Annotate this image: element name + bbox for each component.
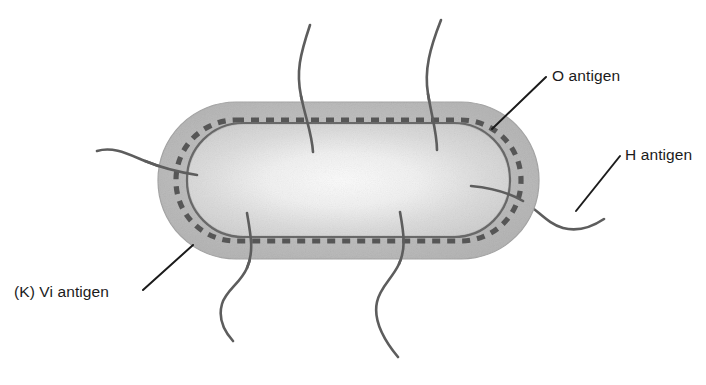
leader-line-o-antigen <box>492 77 546 129</box>
bacterial-cell-diagram: O antigen H antigen (K) Vi antigen <box>0 0 706 385</box>
leader-line-h-antigen <box>576 156 620 211</box>
label-h-antigen: H antigen <box>625 146 692 163</box>
figure-root: O antigen H antigen (K) Vi antigen <box>0 0 706 385</box>
cytoplasm <box>189 125 509 236</box>
cell-body <box>158 102 539 259</box>
leader-line-k-vi-antigen <box>143 245 193 290</box>
label-o-antigen: O antigen <box>552 67 620 84</box>
label-k-vi-antigen: (K) Vi antigen <box>14 283 109 300</box>
